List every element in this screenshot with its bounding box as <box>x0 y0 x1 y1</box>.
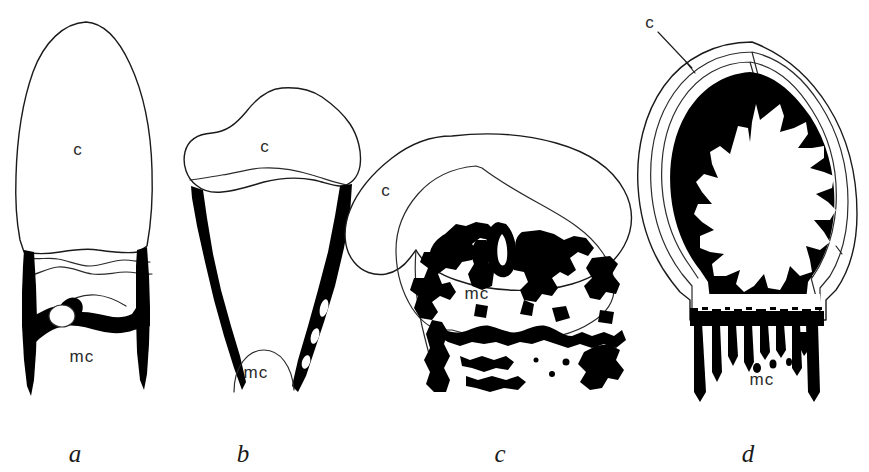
panel-c-label-c: c <box>381 181 391 200</box>
panel-d-metaphyseal-mass <box>690 311 824 326</box>
panel-c-trabecula-flake-3 <box>474 304 488 318</box>
panel-letter-c: c <box>494 440 505 467</box>
panel-letter-b: b <box>237 440 250 467</box>
anatomical-figure: c mc c mc <box>0 0 869 472</box>
panel-b-label-c: c <box>260 137 270 156</box>
panel-c-trabecula-dot-1 <box>563 359 570 366</box>
panel-c-trabecula-dot-3 <box>534 358 539 363</box>
panel-d-label-mc: mc <box>749 370 774 389</box>
panel-c-trabecula-flake-4 <box>598 310 614 324</box>
panel-c-trabecula-dot-2 <box>549 371 555 377</box>
panel-letter-d: d <box>742 440 755 467</box>
panel-letter-a: a <box>69 440 82 467</box>
panel-c-label-mc: mc <box>464 284 489 303</box>
panel-d-metaphyseal-band <box>694 294 822 310</box>
panel-a-label-c: c <box>73 140 83 159</box>
panel-a-label-mc: mc <box>69 347 94 366</box>
panel-b-label-mc: mc <box>243 363 268 382</box>
panel-c-trabecula-lower-left-stem <box>424 320 450 392</box>
figure-container: c mc c mc <box>0 0 869 472</box>
panel-d-label-c: c <box>645 13 655 32</box>
